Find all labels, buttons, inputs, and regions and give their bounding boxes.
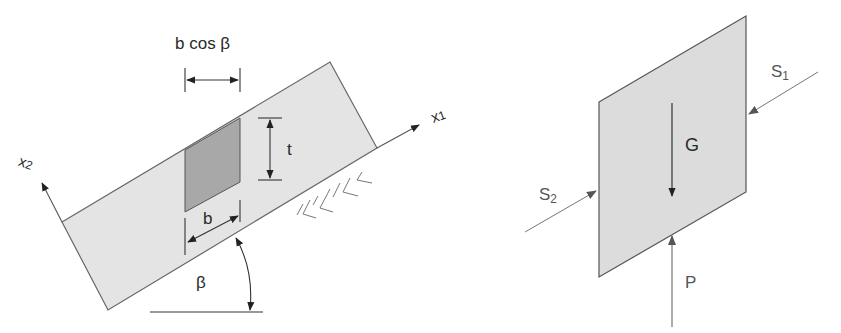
S1-label-sub: 1 bbox=[782, 69, 789, 83]
diagram-canvas bbox=[0, 0, 841, 333]
b-cos-beta-dimension bbox=[185, 68, 240, 92]
x1-axis bbox=[377, 125, 419, 148]
G-label: G bbox=[685, 136, 699, 154]
t-label: t bbox=[287, 141, 292, 158]
force-S2 bbox=[525, 191, 596, 232]
S1-label-main: S bbox=[771, 62, 782, 81]
S2-label-sub: 2 bbox=[550, 192, 557, 206]
P-label: P bbox=[685, 274, 696, 291]
S1-label: S1 bbox=[771, 63, 789, 83]
S2-label: S2 bbox=[539, 186, 557, 206]
b-cos-beta-label: b cos β bbox=[175, 35, 230, 52]
S2-label-main: S bbox=[539, 185, 550, 204]
beta-label: β bbox=[196, 274, 206, 291]
b-label: b bbox=[203, 210, 212, 227]
x2-axis bbox=[42, 183, 62, 222]
